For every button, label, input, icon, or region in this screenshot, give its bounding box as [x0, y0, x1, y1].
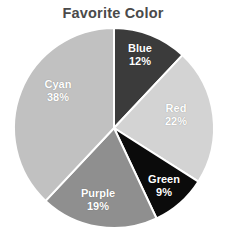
pie-label-percent: 38% [45, 90, 72, 103]
pie-label-name: Red [165, 102, 187, 115]
pie-label-purple: Purple19% [81, 187, 115, 212]
pie-label-green: Green9% [148, 173, 180, 198]
pie-label-name: Cyan [45, 78, 72, 91]
pie-label-percent: 9% [148, 185, 180, 198]
pie-label-name: Purple [81, 187, 115, 200]
pie-label-percent: 19% [81, 199, 115, 212]
pie-chart-figure: Favorite Color Blue12%Red22%Green9%Purpl… [0, 0, 226, 238]
pie-label-red: Red22% [165, 102, 187, 127]
pie-label-name: Green [148, 173, 180, 186]
pie-label-cyan: Cyan38% [45, 78, 72, 103]
pie-label-name: Blue [128, 42, 152, 55]
pie-label-percent: 22% [165, 114, 187, 127]
pie-label-percent: 12% [128, 54, 152, 67]
pie-label-blue: Blue12% [128, 42, 152, 67]
